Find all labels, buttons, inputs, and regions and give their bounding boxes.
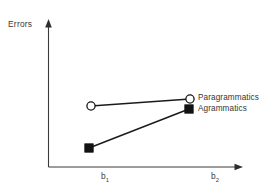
tick-subscript-b1: 1 bbox=[106, 177, 109, 183]
data-point-paragrammatics-b2 bbox=[186, 95, 194, 103]
y-axis-label: Errors bbox=[8, 20, 32, 28]
series-line-paragrammatics bbox=[91, 99, 190, 106]
series-line-agrammatics bbox=[89, 109, 189, 148]
data-point-agrammatics-b2 bbox=[185, 105, 193, 113]
legend-label-paragrammatics: Paragrammatics bbox=[198, 94, 259, 102]
x-axis-tick-label-b2: b2 bbox=[211, 172, 219, 184]
y-axis-arrow-icon bbox=[45, 19, 52, 28]
data-point-paragrammatics-b1 bbox=[87, 102, 95, 110]
x-axis-arrow-icon bbox=[235, 164, 244, 171]
x-axis-tick-label-b1: b1 bbox=[101, 172, 109, 184]
legend-label-agrammatics: Agrammatics bbox=[198, 105, 247, 113]
line-chart: Errors b1 b2 Paragrammatics Agrammatics bbox=[0, 0, 279, 189]
data-point-agrammatics-b1 bbox=[85, 144, 93, 152]
tick-subscript-b2: 2 bbox=[216, 177, 219, 183]
